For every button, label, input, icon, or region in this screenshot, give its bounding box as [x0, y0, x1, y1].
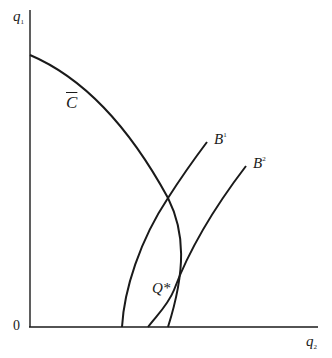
equilibrium-point-label: Q*	[152, 280, 170, 297]
x-axis-label: q2	[306, 333, 317, 350]
curve-b1	[122, 142, 207, 327]
origin-label: 0	[13, 318, 20, 334]
curve-b1-label: B1	[214, 131, 227, 148]
y-axis-label: q1	[13, 8, 24, 25]
curve-c-bar-label: C	[66, 93, 77, 113]
curve-b2-label: B2	[253, 155, 266, 172]
diagram-canvas	[0, 0, 332, 358]
